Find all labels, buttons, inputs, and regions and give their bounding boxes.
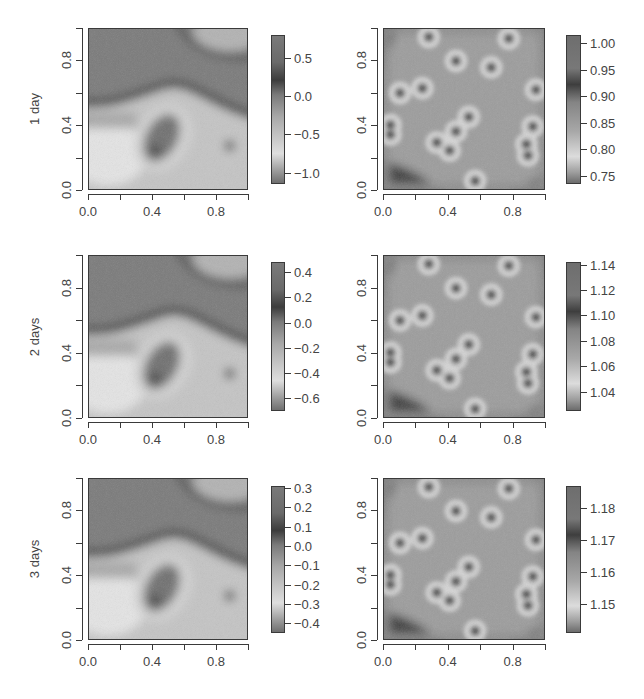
colorbar-tick bbox=[581, 341, 587, 342]
colorbar-tick bbox=[285, 96, 291, 97]
colorbar-tick-label: 0.80 bbox=[590, 142, 615, 157]
colorbar-tick bbox=[581, 604, 587, 605]
x-tick bbox=[513, 644, 514, 650]
colorbar-tick-label: −0.2 bbox=[294, 577, 320, 592]
x-axis-line bbox=[88, 422, 248, 423]
x-tick bbox=[513, 422, 514, 428]
x-tick-label: 0.8 bbox=[504, 204, 522, 219]
x-tick bbox=[545, 644, 546, 650]
colorbar-tick-label: 1.16 bbox=[590, 565, 615, 580]
x-tick-label: 0.4 bbox=[143, 432, 161, 447]
x-axis-line bbox=[88, 194, 248, 195]
colorbar-tick-label: 0.3 bbox=[294, 480, 312, 495]
colorbar-tick bbox=[581, 96, 587, 97]
x-tick bbox=[448, 194, 449, 200]
colorbar-tick-label: 1.10 bbox=[590, 308, 615, 323]
colorbar-tick-label: 0.0 bbox=[294, 538, 312, 553]
y-tick-label: 0.8 bbox=[59, 279, 74, 297]
x-tick-label: 0.8 bbox=[504, 654, 522, 669]
colorbar-tick-label: −0.4 bbox=[294, 366, 320, 381]
x-tick-label: 0.4 bbox=[143, 654, 161, 669]
colorbar-tick bbox=[285, 173, 291, 174]
x-tick bbox=[545, 422, 546, 428]
x-tick-label: 0.4 bbox=[439, 204, 457, 219]
x-tick bbox=[415, 194, 416, 200]
colorbar-tick-label: 1.14 bbox=[590, 257, 615, 272]
y-tick-label: 0.8 bbox=[354, 51, 369, 69]
colorbar bbox=[271, 486, 285, 633]
y-tick bbox=[76, 575, 82, 576]
colorbar-tick bbox=[581, 265, 587, 266]
y-tick bbox=[371, 93, 377, 94]
y-tick bbox=[371, 575, 377, 576]
x-tick bbox=[88, 194, 89, 200]
colorbar bbox=[566, 35, 581, 184]
y-tick bbox=[371, 640, 377, 641]
x-tick bbox=[513, 194, 514, 200]
colorbar-tick bbox=[581, 540, 587, 541]
colorbar-tick bbox=[285, 527, 291, 528]
x-tick bbox=[88, 644, 89, 650]
heatmap-plot-area bbox=[88, 255, 248, 418]
colorbar-tick bbox=[285, 565, 291, 566]
colorbar-tick-label: −0.6 bbox=[294, 391, 320, 406]
colorbar-tick-label: 0.4 bbox=[294, 265, 312, 280]
y-tick-label: 0.0 bbox=[59, 631, 74, 649]
y-tick-label: 0.0 bbox=[354, 409, 369, 427]
x-axis-line bbox=[88, 644, 248, 645]
x-tick bbox=[480, 422, 481, 428]
y-tick bbox=[371, 385, 377, 386]
x-tick bbox=[216, 194, 217, 200]
colorbar-tick bbox=[581, 290, 587, 291]
x-tick-label: 0.8 bbox=[207, 204, 225, 219]
y-tick bbox=[76, 255, 82, 256]
colorbar-tick-label: 0.5 bbox=[294, 50, 312, 65]
x-tick bbox=[152, 644, 153, 650]
y-tick bbox=[371, 353, 377, 354]
x-tick-label: 0.8 bbox=[207, 432, 225, 447]
y-tick bbox=[371, 190, 377, 191]
y-tick-label: 0.4 bbox=[59, 566, 74, 584]
y-tick-label: 0.0 bbox=[59, 181, 74, 199]
x-tick bbox=[184, 422, 185, 428]
colorbar-tick-label: 1.08 bbox=[590, 333, 615, 348]
y-tick bbox=[76, 60, 82, 61]
x-tick-label: 0.4 bbox=[439, 432, 457, 447]
colorbar-tick bbox=[581, 392, 587, 393]
y-tick bbox=[76, 510, 82, 511]
heatmap-plot-area bbox=[88, 28, 248, 190]
colorbar-tick bbox=[285, 272, 291, 273]
y-tick bbox=[76, 543, 82, 544]
y-tick bbox=[76, 608, 82, 609]
x-tick bbox=[248, 422, 249, 428]
x-tick bbox=[480, 194, 481, 200]
y-tick bbox=[371, 125, 377, 126]
colorbar-tick bbox=[581, 70, 587, 71]
x-tick bbox=[216, 644, 217, 650]
y-tick-label: 0.4 bbox=[59, 116, 74, 134]
x-tick bbox=[120, 644, 121, 650]
y-tick bbox=[76, 158, 82, 159]
colorbar-tick bbox=[285, 546, 291, 547]
colorbar bbox=[566, 262, 581, 411]
colorbar-tick-label: 1.15 bbox=[590, 597, 615, 612]
colorbar-tick bbox=[581, 43, 587, 44]
y-tick-label: 0.0 bbox=[354, 181, 369, 199]
row-label: 1 day bbox=[27, 93, 42, 125]
y-tick-label: 0.4 bbox=[354, 116, 369, 134]
y-tick bbox=[76, 640, 82, 641]
x-tick bbox=[415, 644, 416, 650]
y-tick bbox=[76, 320, 82, 321]
colorbar-tick-label: 0.2 bbox=[294, 290, 312, 305]
x-tick bbox=[383, 422, 384, 428]
heatmap-plot-area bbox=[88, 478, 248, 640]
x-axis-line bbox=[383, 422, 545, 423]
y-tick bbox=[76, 93, 82, 94]
x-tick bbox=[88, 422, 89, 428]
y-tick bbox=[371, 418, 377, 419]
colorbar-tick bbox=[285, 488, 291, 489]
y-tick bbox=[76, 28, 82, 29]
x-tick-label: 0.0 bbox=[374, 204, 392, 219]
colorbar-tick bbox=[285, 297, 291, 298]
y-tick bbox=[76, 385, 82, 386]
